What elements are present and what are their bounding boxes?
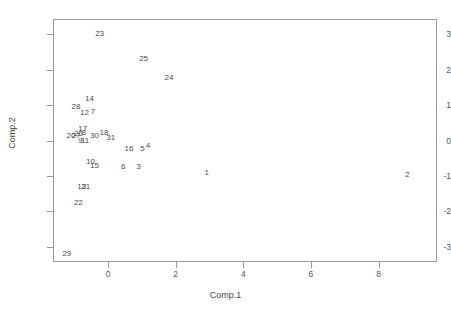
- y-axis-tick: [47, 141, 53, 142]
- x-axis-tick: [243, 262, 244, 268]
- data-point-label: 3: [136, 163, 140, 171]
- y-axis-title: Comp.2: [7, 103, 17, 163]
- data-point-label: 31: [106, 134, 115, 142]
- data-point-label: 20: [66, 132, 75, 140]
- x-axis-tick-label: 0: [93, 270, 123, 279]
- y-axis-tick-label: 3: [407, 30, 451, 39]
- data-point-label: 24: [164, 74, 173, 82]
- data-point-label: 25: [139, 55, 148, 63]
- data-point-label: 14: [85, 95, 94, 103]
- x-axis-tick: [176, 262, 177, 268]
- data-point-label: 4: [146, 142, 150, 150]
- x-axis-tick-label: 6: [296, 270, 326, 279]
- data-point-label: 22: [74, 199, 83, 207]
- data-point-label: 6: [121, 163, 125, 171]
- data-point-label: 29: [62, 250, 71, 258]
- data-point-label: 21: [81, 183, 90, 191]
- y-axis-tick: [47, 247, 53, 248]
- x-axis-tick-label: 4: [228, 270, 258, 279]
- y-axis-tick-label: -2: [407, 207, 451, 216]
- top-edge-artifact: [0, 0, 451, 6]
- x-axis-tick-label: 2: [161, 270, 191, 279]
- x-axis-tick-label: 8: [364, 270, 394, 279]
- x-axis-tick: [108, 262, 109, 268]
- x-axis-tick: [311, 262, 312, 268]
- data-point-label: 11: [81, 137, 89, 145]
- data-point-label: 30: [90, 132, 99, 140]
- data-point-label: 23: [95, 30, 104, 38]
- data-point-label: 16: [125, 145, 134, 153]
- plot-data-area: 2325241428127178262720911301831165410156…: [54, 20, 436, 261]
- y-axis-tick: [47, 211, 53, 212]
- x-axis-title: Comp.1: [0, 290, 451, 300]
- y-axis-tick: [47, 70, 53, 71]
- data-point-label: 1: [205, 169, 209, 177]
- data-point-label: 5: [140, 145, 144, 153]
- y-axis-tick: [47, 34, 53, 35]
- data-point-label: 15: [90, 162, 99, 170]
- y-axis-tick-label: 1: [407, 101, 451, 110]
- scatter-plot-screenshot: 2325241428127178262720911301831165410156…: [0, 0, 451, 313]
- y-axis-tick: [47, 176, 53, 177]
- y-axis-tick-label: 0: [407, 136, 451, 145]
- y-axis-tick-label: 2: [407, 65, 451, 74]
- y-axis-tick: [47, 105, 53, 106]
- x-axis-tick: [379, 262, 380, 268]
- y-axis-tick-label: -3: [407, 242, 451, 251]
- data-point-label: 12: [80, 109, 89, 117]
- data-point-label: 7: [91, 108, 95, 116]
- y-axis-tick-label: -1: [407, 171, 451, 180]
